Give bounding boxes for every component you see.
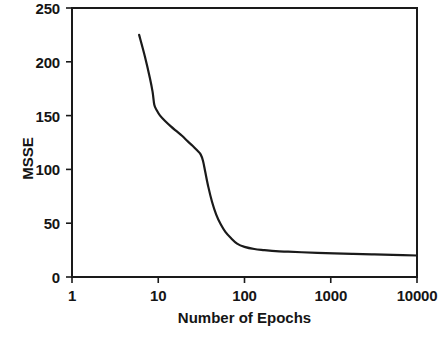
x-axis-title: Number of Epochs bbox=[72, 309, 417, 326]
x-tick-label: 1 bbox=[68, 287, 76, 304]
y-tick-label: 250 bbox=[6, 0, 60, 17]
x-tick-label: 10000 bbox=[397, 287, 438, 304]
y-axis-title: MSSE bbox=[19, 114, 36, 204]
x-tick-label: 10 bbox=[150, 287, 166, 304]
y-tick-label: 50 bbox=[6, 215, 60, 232]
plot-area bbox=[0, 0, 446, 338]
plot-frame bbox=[72, 8, 417, 277]
data-series bbox=[139, 35, 417, 256]
x-tick-label: 1000 bbox=[314, 287, 347, 304]
y-tick-label: 0 bbox=[6, 269, 60, 286]
y-tick-label: 200 bbox=[6, 53, 60, 70]
chart-figure: 050100150200250 110100100010000 MSSE Num… bbox=[0, 0, 446, 338]
axis-ticks bbox=[66, 8, 417, 283]
x-tick-label: 100 bbox=[232, 287, 256, 304]
